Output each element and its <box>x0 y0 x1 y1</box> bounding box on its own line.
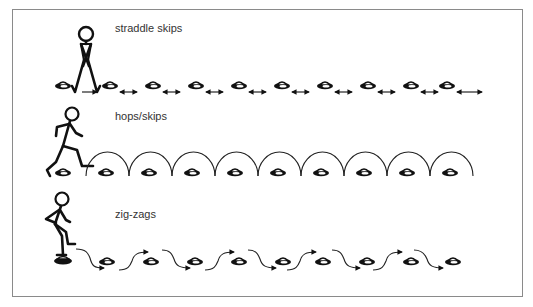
stick-figure-running-icon <box>47 108 93 177</box>
cones-row-zigzag <box>99 258 461 265</box>
zigzag-arrows <box>76 249 443 270</box>
cones-row-hops <box>55 169 458 176</box>
cones-row-straddle <box>55 82 455 89</box>
drill-illustration <box>0 0 533 307</box>
stick-figure-straddle-icon <box>72 27 100 92</box>
stick-figure-stepping-icon <box>46 193 75 256</box>
